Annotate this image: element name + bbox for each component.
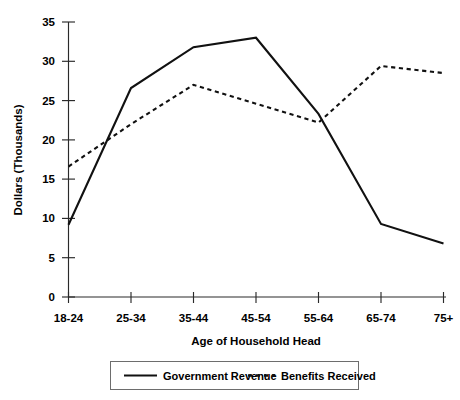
y-tick-label-0: 0 [49,291,55,303]
x-tick-label-35-44: 35-44 [179,312,209,324]
y-axis-tick-labels: 35 30 25 20 15 10 5 0 [42,16,55,303]
y-tick-label-5: 5 [49,252,56,264]
y-axis-title: Dollars (Thousands) [12,104,24,215]
y-tick-label-25: 25 [42,95,55,107]
chart-container: 35 30 25 20 15 10 5 0 Dollars (Thousands… [0,0,460,400]
x-axis-tick-labels: 18-24 25-34 35-44 45-54 55-64 65-74 75+ [54,312,454,324]
x-tick-label-45-54: 45-54 [241,312,271,324]
legend-label-benefits-received: Benefits Received [281,370,376,382]
y-tick-label-15: 15 [42,173,55,185]
y-tick-label-30: 30 [42,55,55,67]
legend: Government Revenue Benefits Received [111,362,376,390]
line-chart: 35 30 25 20 15 10 5 0 Dollars (Thousands… [0,0,460,400]
y-axis: 35 30 25 20 15 10 5 0 Dollars (Thousands… [12,16,75,303]
x-axis-title: Age of Household Head [191,335,321,347]
y-tick-label-20: 20 [42,134,55,146]
x-tick-label-18-24: 18-24 [54,312,84,324]
x-tick-label-55-64: 55-64 [304,312,334,324]
plot-series [69,38,444,244]
y-tick-label-35: 35 [42,16,55,28]
series-government-revenue [69,38,444,244]
x-axis: 18-24 25-34 35-44 45-54 55-64 65-74 75+ … [54,292,454,347]
x-tick-label-65-74: 65-74 [366,312,396,324]
series-benefits-received [69,66,444,167]
x-tick-label-25-34: 25-34 [116,312,146,324]
y-tick-label-10: 10 [42,212,55,224]
x-tick-label-75-plus: 75+ [434,312,454,324]
